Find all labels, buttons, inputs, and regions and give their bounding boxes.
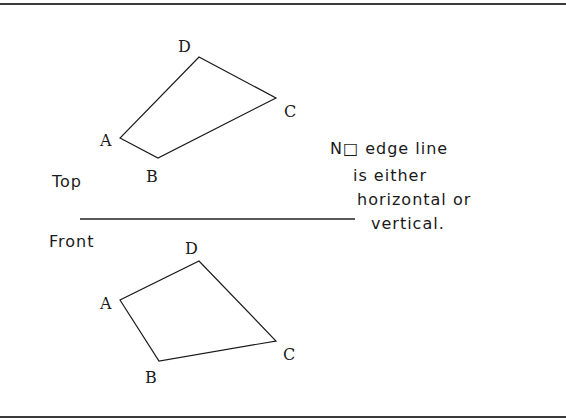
front-vertex-b-label: B (145, 368, 157, 387)
top-view-label: Top (51, 172, 82, 191)
note-line-3: horizontal or (357, 190, 471, 209)
note-line-4: vertical. (371, 214, 445, 233)
front-vertex-c-label: C (283, 345, 295, 364)
front-view-quadrilateral (120, 261, 276, 361)
top-vertex-b-label: B (146, 167, 158, 186)
note-line-2: is either (353, 166, 427, 185)
front-vertex-a-label: A (99, 294, 112, 313)
top-vertex-d-label: D (178, 37, 191, 56)
top-view-quadrilateral (120, 57, 276, 158)
front-view: Front D A C B (49, 232, 295, 387)
front-view-label: Front (49, 232, 94, 251)
note-line-1: N□ edge line (330, 139, 448, 158)
orthographic-drawing: D C A B Top Front D A C B N□ edge line i… (0, 0, 566, 420)
top-vertex-c-label: C (284, 102, 296, 121)
top-view: D C A B Top (51, 37, 296, 191)
front-vertex-d-label: D (185, 239, 198, 258)
top-vertex-a-label: A (99, 131, 112, 150)
